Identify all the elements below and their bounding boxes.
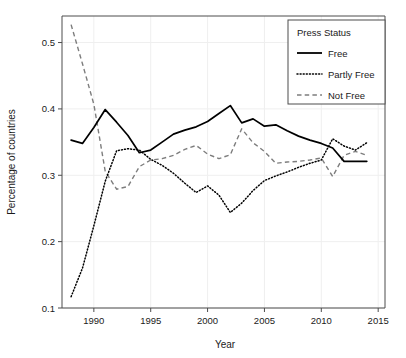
y-tick-label: 0.1 [42, 303, 55, 314]
legend[interactable]: Press Status FreePartly FreeNot Free [288, 20, 385, 104]
series-line-partly-free [71, 139, 367, 297]
x-tick-label: 2010 [311, 315, 332, 326]
y-tick-label: 0.5 [42, 37, 55, 48]
legend-title: Press Status [297, 27, 351, 38]
line-chart: 0.10.20.30.40.5 199019952000200520102015… [0, 0, 406, 358]
legend-item-label[interactable]: Partly Free [328, 69, 374, 80]
x-tick-label: 2005 [254, 315, 275, 326]
x-tick-label: 2015 [368, 315, 389, 326]
y-tick-label: 0.4 [42, 103, 55, 114]
x-tick-label: 2000 [197, 315, 218, 326]
y-axis-title: Percentage of countries [6, 109, 17, 215]
x-tick-label: 1990 [83, 315, 104, 326]
y-axis-ticks: 0.10.20.30.40.5 [42, 37, 62, 313]
x-axis-ticks: 199019952000200520102015 [83, 308, 388, 326]
series-line-free [71, 106, 367, 162]
y-tick-label: 0.3 [42, 170, 55, 181]
legend-item-label[interactable]: Not Free [328, 90, 365, 101]
y-tick-label: 0.2 [42, 236, 55, 247]
x-tick-label: 1995 [140, 315, 161, 326]
x-axis-title: Year [215, 339, 236, 350]
legend-item-label[interactable]: Free [328, 48, 348, 59]
chart-figure: 0.10.20.30.40.5 199019952000200520102015… [0, 0, 406, 358]
